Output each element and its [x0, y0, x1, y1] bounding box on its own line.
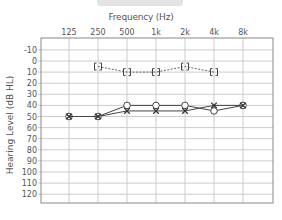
grid-lines — [38, 38, 273, 203]
audiogram-plot — [0, 0, 282, 220]
plot-border — [41, 38, 273, 203]
